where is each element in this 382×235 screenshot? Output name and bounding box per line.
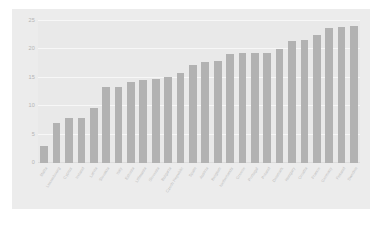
x-axis-tick-label: Greece bbox=[235, 166, 247, 180]
x-label-slot: France bbox=[311, 165, 323, 209]
bar[interactable] bbox=[226, 54, 234, 163]
bar[interactable] bbox=[139, 80, 147, 163]
x-label-slot: Germany bbox=[323, 165, 335, 209]
x-axis-tick-label: Hungary bbox=[284, 166, 297, 182]
bar-slot bbox=[323, 21, 335, 163]
x-label-slot: Sweden bbox=[348, 165, 360, 209]
bar-slot bbox=[150, 21, 162, 163]
bar-slot bbox=[100, 21, 112, 163]
bar-slot bbox=[249, 21, 261, 163]
x-axis-tick-label: Ireland bbox=[75, 166, 86, 180]
bar-slot bbox=[261, 21, 273, 163]
x-label-slot: Denmark bbox=[273, 165, 285, 209]
chart-screenshot: 0510152025 MaltaLuxembourgCyprusIrelandL… bbox=[0, 0, 382, 235]
bar-slot bbox=[187, 21, 199, 163]
x-axis-tick-label: Slovenia bbox=[147, 166, 160, 182]
bar[interactable] bbox=[102, 87, 110, 163]
bar[interactable] bbox=[40, 146, 48, 163]
bar[interactable] bbox=[338, 27, 346, 163]
bar-slot bbox=[236, 21, 248, 163]
bar[interactable] bbox=[177, 73, 185, 163]
x-label-slot: Cyprus bbox=[63, 165, 75, 209]
bar[interactable] bbox=[152, 79, 160, 163]
x-axis-tick-label: Estonia bbox=[123, 166, 135, 181]
x-axis-tick-label: Latvia bbox=[88, 166, 98, 178]
x-label-slot: Netherlands bbox=[224, 165, 236, 209]
x-axis-tick-label: Italy bbox=[114, 166, 122, 175]
x-label-slot: Ireland bbox=[75, 165, 87, 209]
bar-slot bbox=[348, 21, 360, 163]
bar[interactable] bbox=[325, 28, 333, 163]
bar-slot bbox=[286, 21, 298, 163]
x-axis-tick-label: Cyprus bbox=[62, 166, 73, 180]
bar-slot bbox=[335, 21, 347, 163]
bar-slot bbox=[75, 21, 87, 163]
x-label-slot: Spain bbox=[187, 165, 199, 209]
x-label-slot: Austria bbox=[199, 165, 211, 209]
x-label-slot: Lithuania bbox=[137, 165, 149, 209]
x-label-slot: Latvia bbox=[88, 165, 100, 209]
bar-slot bbox=[174, 21, 186, 163]
bar[interactable] bbox=[78, 118, 86, 163]
bar-series bbox=[38, 21, 360, 163]
bar-slot bbox=[298, 21, 310, 163]
y-axis-tick-label: 0 bbox=[32, 159, 35, 165]
bar[interactable] bbox=[65, 118, 73, 163]
x-axis-tick-label: Austria bbox=[198, 166, 209, 180]
bar[interactable] bbox=[276, 49, 284, 163]
bar[interactable] bbox=[263, 53, 271, 163]
bar[interactable] bbox=[350, 26, 358, 163]
bar[interactable] bbox=[239, 53, 247, 163]
x-label-slot: Czech Republic bbox=[174, 165, 186, 209]
bar-slot bbox=[38, 21, 50, 163]
y-axis-tick-label: 20 bbox=[28, 45, 35, 51]
bar[interactable] bbox=[288, 41, 296, 163]
y-axis-tick-label: 15 bbox=[28, 74, 35, 80]
x-axis-tick-label: Germany bbox=[320, 166, 333, 183]
x-axis-tick-label: Slovakia bbox=[98, 166, 111, 182]
y-axis-tick-label: 5 bbox=[32, 131, 35, 137]
bar-slot bbox=[137, 21, 149, 163]
x-label-slot: Slovenia bbox=[150, 165, 162, 209]
x-axis-tick-label: Spain bbox=[187, 166, 197, 178]
bar-slot bbox=[50, 21, 62, 163]
chart-panel: 0510152025 MaltaLuxembourgCyprusIrelandL… bbox=[12, 9, 370, 209]
x-axis-tick-label: Poland bbox=[260, 166, 271, 180]
x-axis-tick-label: Sweden bbox=[346, 166, 358, 181]
x-axis-tick-label: Belgium bbox=[210, 166, 222, 182]
x-label-slot: Finland bbox=[335, 165, 347, 209]
bar-slot bbox=[88, 21, 100, 163]
x-label-slot: Greece bbox=[236, 165, 248, 209]
x-label-slot: Poland bbox=[261, 165, 273, 209]
x-label-slot: Hungary bbox=[286, 165, 298, 209]
bar[interactable] bbox=[201, 62, 209, 163]
bar-slot bbox=[125, 21, 137, 163]
x-axis-tick-label: Denmark bbox=[271, 166, 284, 183]
bar[interactable] bbox=[53, 123, 61, 163]
x-axis-labels: MaltaLuxembourgCyprusIrelandLatviaSlovak… bbox=[38, 165, 360, 209]
bar[interactable] bbox=[313, 35, 321, 163]
bar[interactable] bbox=[301, 40, 309, 163]
bar[interactable] bbox=[115, 87, 123, 163]
bar[interactable] bbox=[214, 61, 222, 163]
x-axis-tick-label: France bbox=[310, 166, 321, 180]
bar[interactable] bbox=[164, 77, 172, 163]
bar[interactable] bbox=[127, 82, 135, 163]
bar-slot bbox=[162, 21, 174, 163]
x-axis-tick-label: Croatia bbox=[297, 166, 308, 180]
x-axis-tick-label: Finland bbox=[334, 166, 346, 180]
bar[interactable] bbox=[251, 53, 259, 163]
bar[interactable] bbox=[189, 65, 197, 163]
bar-slot bbox=[199, 21, 211, 163]
plot-area: 0510152025 bbox=[38, 21, 360, 163]
x-axis-tick-label: Malta bbox=[39, 166, 49, 177]
bar-slot bbox=[224, 21, 236, 163]
bar-slot bbox=[63, 21, 75, 163]
x-label-slot: Croatia bbox=[298, 165, 310, 209]
bar-slot bbox=[311, 21, 323, 163]
y-axis-tick-label: 10 bbox=[28, 102, 35, 108]
bar-slot bbox=[112, 21, 124, 163]
x-label-slot: Portugal bbox=[249, 165, 261, 209]
bar[interactable] bbox=[90, 108, 98, 163]
y-axis-tick-label: 25 bbox=[28, 17, 35, 23]
